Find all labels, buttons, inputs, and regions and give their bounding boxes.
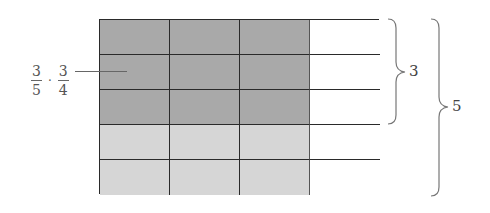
brace-label-three: 3: [409, 62, 419, 80]
braces: [0, 0, 490, 213]
brace-three-rows-icon: [388, 19, 405, 124]
brace-label-five: 5: [452, 97, 462, 115]
brace-five-rows-icon: [431, 19, 448, 196]
